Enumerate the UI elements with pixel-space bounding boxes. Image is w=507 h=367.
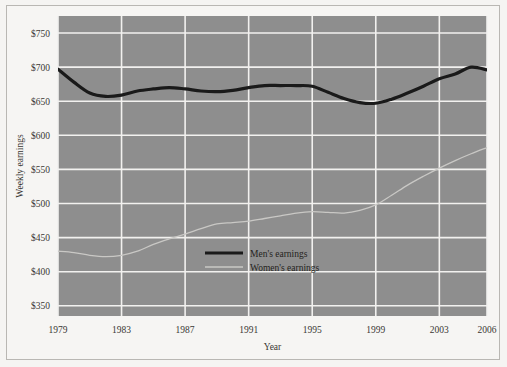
y-tick-label: $750 (31, 29, 50, 39)
y-axis-tick-labels: $350$400$450$500$550$600$650$700$750 (31, 29, 50, 312)
legend-label-mens-earnings: Men's earnings (250, 249, 308, 259)
x-tick-label: 1991 (239, 325, 258, 335)
y-tick-label: $550 (31, 165, 50, 175)
x-tick-label: 2006 (478, 325, 497, 335)
x-tick-label: 1987 (176, 325, 195, 335)
x-axis-title: Year (264, 342, 282, 352)
x-axis-tick-labels: 19791983198719911995199920032006 (49, 325, 497, 335)
y-tick-label: $450 (31, 233, 50, 243)
x-axis-label-text: Year (264, 342, 282, 352)
legend-label-womens-earnings: Women's earnings (250, 263, 320, 273)
y-tick-label: $350 (31, 301, 50, 311)
x-tick-label: 1979 (49, 325, 68, 335)
y-axis-label-text: Weekly earnings (15, 134, 25, 198)
chart-frame: $350$400$450$500$550$600$650$700$750 197… (6, 5, 500, 360)
y-tick-label: $600 (31, 131, 50, 141)
y-tick-label: $700 (31, 63, 50, 73)
x-tick-label: 1983 (112, 325, 131, 335)
y-tick-label: $500 (31, 199, 50, 209)
x-tick-label: 2003 (430, 325, 449, 335)
x-tick-label: 1999 (366, 325, 385, 335)
x-tick-label: 1995 (303, 325, 322, 335)
y-tick-label: $400 (31, 267, 50, 277)
y-tick-label: $650 (31, 97, 50, 107)
earnings-line-chart: $350$400$450$500$550$600$650$700$750 197… (7, 6, 501, 361)
chart-page: $350$400$450$500$550$600$650$700$750 197… (0, 0, 507, 367)
y-axis-title: Weekly earnings (15, 134, 25, 198)
